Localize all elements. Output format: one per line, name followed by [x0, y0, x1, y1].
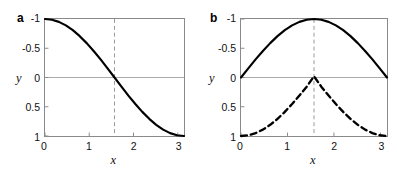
x-tick-label: 2: [126, 141, 142, 152]
panel-a-x-axis-title: x: [111, 154, 117, 167]
panel-a-plot-svg: [45, 19, 184, 136]
y-tick-label: 0: [8, 73, 40, 84]
y-tick-label: 0.5: [204, 102, 236, 113]
x-tick-label: 0: [36, 141, 52, 152]
panel-b: b y x 10.50-0.5-10123: [196, 0, 394, 176]
x-tick-label: 0: [232, 141, 248, 152]
x-tick-label: 1: [81, 141, 97, 152]
y-tick-label: 0: [204, 73, 236, 84]
y-tick-label: -1: [204, 13, 236, 24]
panel-b-plot-svg: [241, 19, 387, 136]
x-tick-label: 2: [326, 141, 342, 152]
panel-b-x-axis-title: x: [310, 154, 316, 167]
x-tick-label: 3: [171, 141, 187, 152]
panel-a-plot-area: [44, 18, 185, 137]
data-series-line: [241, 76, 387, 136]
figure-container: a y x 10.50-0.5-10123 b y x 10.50-0.5-10…: [0, 0, 397, 176]
y-tick-label: -0.5: [204, 43, 236, 54]
y-tick-label: -0.5: [8, 43, 40, 54]
y-tick-label: 0.5: [8, 102, 40, 113]
x-tick-label: 3: [373, 141, 389, 152]
y-tick-label: -1: [8, 13, 40, 24]
panel-a: a y x 10.50-0.5-10123: [0, 0, 198, 176]
panel-b-plot-area: [240, 18, 388, 137]
x-tick-label: 1: [279, 141, 295, 152]
